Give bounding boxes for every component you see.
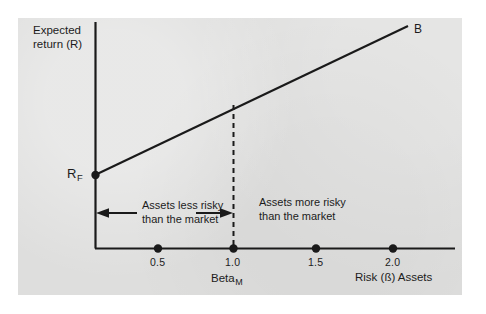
x-tick-label-1-5: 1.5	[308, 256, 323, 268]
annotation-more-risky: Assets more risky than the market	[259, 196, 346, 224]
annotation-more-risky-line-1: Assets more risky	[259, 196, 346, 210]
risk-free-rate-label-sub: F	[76, 173, 82, 183]
tick-point-2-0	[389, 244, 397, 252]
market-beta-label-sub: M	[235, 277, 243, 287]
annotation-less-risky: Assets less risky than the market	[142, 199, 223, 227]
x-tick-label-1-0: 1.0	[225, 256, 240, 268]
y-axis-title-line-2: return (R)	[33, 38, 82, 52]
security-market-line	[95, 26, 408, 175]
tick-point-0-5	[154, 244, 162, 252]
x-tick-label-0-5: 0.5	[150, 256, 165, 268]
annotation-less-risky-line-1: Assets less risky	[142, 199, 223, 213]
y-axis-title-line-1: Expected	[33, 24, 82, 38]
x-tick-label-2-0: 2.0	[385, 256, 400, 268]
risk-free-rate-label-main: R	[67, 166, 76, 181]
risk-free-rate-point	[91, 171, 99, 179]
figure-container: Expected return (R) B RF Assets less ris…	[0, 0, 486, 314]
y-axis-title: Expected return (R)	[33, 24, 82, 51]
market-beta-label: BetaM	[211, 272, 243, 287]
sml-endpoint-label: B	[414, 22, 422, 36]
annotation-more-risky-line-2: than the market	[259, 210, 346, 224]
risk-free-rate-label: RF	[67, 166, 83, 184]
tick-point-1-5	[312, 244, 320, 252]
annotation-less-risky-line-2: than the market	[142, 213, 223, 227]
tick-point-1-0	[229, 244, 237, 252]
less-risky-left-arrow	[96, 208, 137, 218]
x-axis-title: Risk (ß) Assets	[355, 271, 432, 285]
market-beta-label-main: Beta	[211, 272, 235, 284]
